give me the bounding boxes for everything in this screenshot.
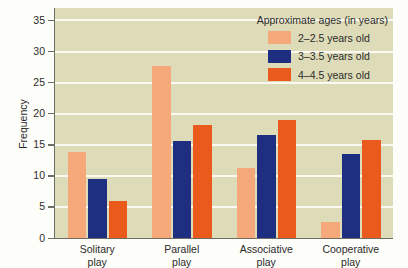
y-tick-label: 15: [0, 139, 45, 150]
y-tick-mark: [48, 175, 55, 176]
y-tick-mark: [48, 113, 55, 114]
x-tick-label-line: Solitary: [55, 243, 140, 256]
y-tick-label: 20: [0, 108, 45, 119]
legend-label: 2–2.5 years old: [298, 32, 390, 44]
gridline: [55, 113, 393, 115]
y-tick-label: 0: [0, 233, 45, 244]
legend-title: Approximate ages (in years): [200, 14, 390, 26]
x-axis-line: [54, 238, 393, 239]
legend-label: 3–3.5 years old: [298, 50, 390, 62]
legend-label: 4–4.5 years old: [298, 69, 390, 81]
bar: [237, 168, 256, 238]
bar: [88, 179, 107, 238]
x-tick-label-line: play: [55, 256, 140, 268]
x-tick-label-line: play: [309, 256, 394, 268]
x-tick-label: Associativeplay: [224, 243, 309, 268]
legend-swatch: [268, 31, 291, 44]
y-tick-label: 30: [0, 46, 45, 57]
bar: [68, 152, 87, 238]
x-tick-label-line: Cooperative: [309, 243, 394, 256]
bar: [152, 66, 171, 238]
legend: Approximate ages (in years) 2–2.5 years …: [200, 14, 390, 87]
bar-chart-figure: Frequency Approximate ages (in years) 2–…: [0, 0, 408, 268]
x-tick-label: Cooperativeplay: [309, 243, 394, 268]
bar: [173, 141, 192, 238]
y-tick-mark: [48, 51, 55, 52]
y-tick-mark: [48, 82, 55, 83]
bar: [321, 222, 340, 238]
y-tick-mark: [48, 20, 55, 21]
y-axis-line: [54, 8, 55, 239]
legend-item: 2–2.5 years old: [200, 31, 390, 44]
y-tick-mark: [48, 206, 55, 207]
y-axis-title: Frequency: [17, 79, 29, 169]
x-tick-label-line: Parallel: [140, 243, 225, 256]
y-tick-mark: [48, 238, 55, 239]
legend-item: 3–3.5 years old: [200, 50, 390, 63]
x-tick-label-line: play: [224, 256, 309, 268]
bar: [109, 201, 128, 238]
y-tick-label: 35: [0, 15, 45, 26]
y-tick-label: 5: [0, 201, 45, 212]
bar: [342, 154, 361, 238]
x-tick-label: Parallelplay: [140, 243, 225, 268]
bar: [362, 140, 381, 238]
x-tick-label: Solitaryplay: [55, 243, 140, 268]
legend-swatch: [268, 68, 291, 81]
bar: [193, 125, 212, 238]
y-tick-mark: [48, 144, 55, 145]
bar: [257, 135, 276, 238]
gridline: [55, 144, 393, 146]
x-tick-label-line: Associative: [224, 243, 309, 256]
y-tick-label: 25: [0, 77, 45, 88]
bar: [278, 120, 297, 238]
legend-swatch: [268, 50, 291, 63]
legend-item: 4–4.5 years old: [200, 68, 390, 81]
x-tick-label-line: play: [140, 256, 225, 268]
y-tick-label: 10: [0, 170, 45, 181]
